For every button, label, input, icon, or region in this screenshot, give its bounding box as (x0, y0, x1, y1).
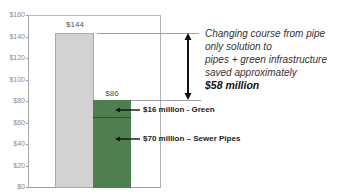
bar-pipes-green-value: $86 (92, 89, 132, 98)
double-arrow-icon (183, 33, 193, 101)
y-tick-40: $40 (0, 140, 25, 148)
arrow-left-icon (115, 106, 141, 114)
bar-pipe-only (55, 33, 94, 188)
y-tick-60: $60 (0, 119, 25, 127)
callout-line: only solution to (205, 40, 327, 53)
annotation-green-segment: $16 million - Green (143, 105, 215, 114)
callout-savings-amount: $58 million (205, 79, 327, 92)
bar-pipe-only-value: $144 (55, 20, 95, 29)
y-axis-line (28, 15, 29, 188)
callout-line: Changing course from pipe (205, 27, 327, 40)
y-tick-160: $160 (0, 11, 25, 19)
segment-divider (93, 117, 131, 118)
plot-area-top-border (28, 15, 161, 16)
y-tick-80: $80 (0, 97, 25, 105)
plot-area-right-border (160, 15, 161, 187)
y-tick-140: $140 (0, 33, 25, 41)
arrow-left-icon (115, 135, 141, 143)
savings-callout: Changing course from pipe only solution … (205, 27, 327, 92)
annotation-sewer-segment: $70 million – Sewer Pipes (143, 134, 240, 143)
y-tick-120: $120 (0, 54, 25, 62)
y-tick-20: $20 (0, 162, 25, 170)
callout-line: saved approximately (205, 66, 327, 79)
y-tick-100: $100 (0, 76, 25, 84)
callout-line: pipes + green infrastructure (205, 53, 327, 66)
y-tick-0: $0 (0, 183, 25, 191)
